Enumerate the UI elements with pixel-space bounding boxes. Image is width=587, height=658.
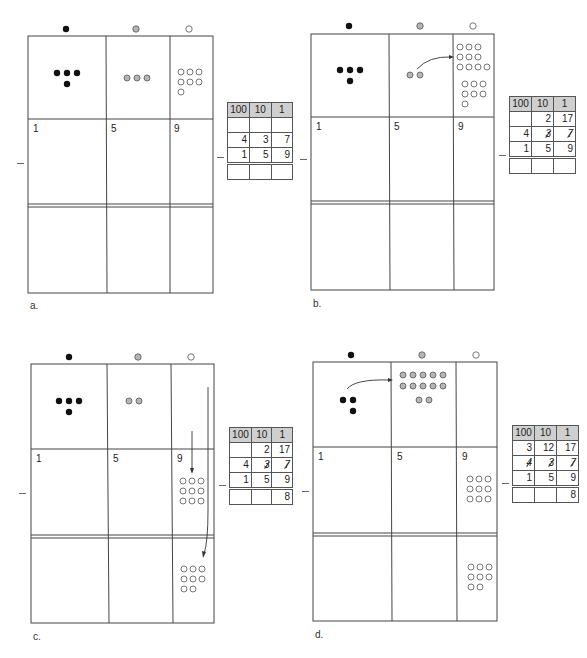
result-hundreds [230, 489, 252, 505]
struck-digit: 7 [570, 457, 576, 468]
struck-digit: 3 [548, 457, 554, 468]
tens-subtrahend: 5 [113, 453, 119, 464]
hundreds-chip-icon [66, 354, 72, 360]
header-ones: 1 [271, 103, 292, 118]
header-hundreds: 100 [230, 428, 252, 443]
regroup-tens: 12 [535, 441, 557, 456]
minuend-ones: 7 [271, 133, 292, 148]
hundreds-subtrahend: 1 [318, 451, 324, 462]
regroup-tens [249, 118, 271, 133]
tens-chip-icon [417, 23, 423, 29]
header-hundreds: 100 [510, 97, 532, 112]
minuend-hundreds: 4 [510, 127, 532, 142]
hundreds-subtrahend: 1 [316, 121, 322, 132]
panel-label-b: b. [313, 298, 321, 309]
regroup-ones: 17 [272, 443, 293, 458]
panel-label-d: d. [315, 629, 323, 640]
minus-sign-left [302, 491, 309, 492]
header-tens: 10 [532, 97, 554, 112]
ones-subtrahend: 9 [462, 451, 468, 462]
regroup-tens: 2 [251, 443, 272, 458]
hundreds-chip-icon [348, 352, 354, 358]
algorithm-table-a: 100 10 1 4 3 7 1 5 9 [227, 102, 293, 180]
result-tens [251, 489, 272, 505]
tens-subtrahend: 5 [111, 123, 117, 134]
subtrahend-tens: 5 [532, 142, 554, 158]
header-hundreds: 100 [228, 103, 250, 118]
minuend-hundreds: 4 [230, 458, 252, 473]
result-ones: 8 [557, 487, 579, 503]
hundreds-subtrahend: 1 [33, 123, 39, 134]
header-tens: 10 [535, 426, 557, 441]
regroup-tens: 2 [532, 112, 554, 127]
move-to-result-arrow-icon [204, 387, 208, 554]
minuend-tens: 3 [249, 133, 271, 148]
ones-subtrahend: 9 [458, 121, 464, 132]
tens-subtrahend: 5 [394, 121, 400, 132]
minus-sign-left [300, 159, 307, 160]
minuend-tens: 3 [251, 458, 272, 473]
result-hundreds [513, 487, 535, 503]
minuend-ones: 7 [557, 456, 579, 471]
result-ones [271, 164, 292, 180]
result-ones: 8 [272, 489, 293, 505]
tens-chip-icon [135, 354, 141, 360]
minuend-tens: 3 [535, 456, 557, 471]
hundreds-chip-icon [63, 26, 69, 32]
header-ones: 1 [557, 426, 579, 441]
header-ones: 1 [554, 97, 576, 112]
panel-label-c: c. [33, 631, 41, 642]
regroup-hundreds [510, 112, 532, 127]
struck-digit: 3 [264, 459, 270, 470]
minus-sign-left [17, 163, 24, 164]
struck-digit: 7 [284, 459, 290, 470]
tens-chip-icon [419, 352, 425, 358]
subtrahend-tens: 5 [249, 148, 271, 164]
struck-digit: 3 [545, 128, 551, 139]
subtrahend-hundreds: 1 [513, 471, 535, 487]
struck-digit: 4 [526, 457, 532, 468]
header-tens: 10 [251, 428, 272, 443]
panel-label-a: a. [30, 300, 38, 311]
minuend-ones: 7 [554, 127, 576, 142]
header-ones: 1 [272, 428, 293, 443]
minuend-hundreds: 4 [513, 456, 535, 471]
ones-subtrahend: 9 [174, 123, 180, 134]
hundreds-chip-icon [346, 23, 352, 29]
subtrahend-ones: 9 [272, 473, 293, 489]
panel-d: 1 5 9 100 10 1 3 12 17 4 3 7 1 5 9 8 d. [293, 320, 587, 658]
minus-sign-table [499, 155, 506, 156]
result-tens [249, 164, 271, 180]
regroup-arrow-icon [347, 380, 389, 389]
tens-subtrahend: 5 [397, 451, 403, 462]
minuend-ones: 7 [272, 458, 293, 473]
panel-b: 1 5 9 100 10 1 2 17 4 3 7 1 5 9 b. [293, 0, 587, 320]
tens-chip-icon [133, 26, 139, 32]
ones-chip-icon [470, 23, 476, 29]
result-ones [554, 158, 576, 174]
subtrahend-tens: 5 [251, 473, 272, 489]
subtrahend-hundreds: 1 [230, 473, 252, 489]
hundreds-subtrahend: 1 [36, 453, 42, 464]
minus-sign-left [19, 493, 26, 494]
result-hundreds [510, 158, 532, 174]
regroup-hundreds: 3 [513, 441, 535, 456]
regroup-hundreds [230, 443, 252, 458]
algorithm-table-b: 100 10 1 2 17 4 3 7 1 5 9 [509, 96, 576, 174]
regroup-ones [271, 118, 292, 133]
regroup-ones: 17 [554, 112, 576, 127]
subtrahend-ones: 9 [271, 148, 292, 164]
ones-chip-icon [188, 354, 194, 360]
subtrahend-ones: 9 [554, 142, 576, 158]
algorithm-table-d: 100 10 1 3 12 17 4 3 7 1 5 9 8 [512, 425, 579, 503]
regroup-hundreds [228, 118, 250, 133]
regroup-ones: 17 [557, 441, 579, 456]
header-hundreds: 100 [513, 426, 535, 441]
regroup-arrow-icon [417, 57, 451, 69]
panel-a: 1 5 9 100 10 1 4 3 7 1 5 9 a. [0, 0, 293, 320]
minus-sign-table [217, 157, 224, 158]
result-hundreds [228, 164, 250, 180]
panel-c: 1 5 9 100 10 1 2 17 4 3 7 1 5 9 8 c. [0, 320, 293, 658]
result-tens [532, 158, 554, 174]
minuend-tens: 3 [532, 127, 554, 142]
